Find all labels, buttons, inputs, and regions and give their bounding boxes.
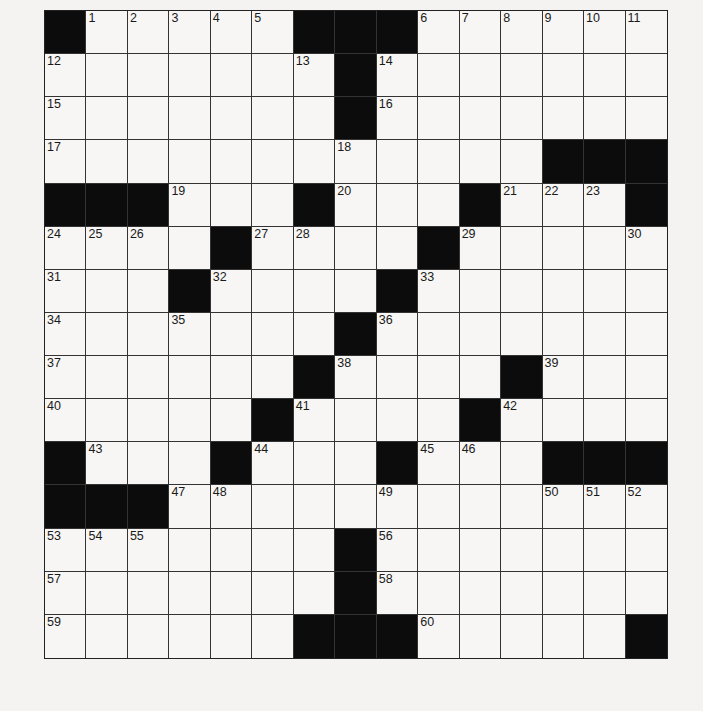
- answer-cell[interactable]: 22: [543, 184, 584, 227]
- answer-cell[interactable]: [543, 529, 584, 572]
- answer-cell[interactable]: [86, 313, 127, 356]
- answer-cell[interactable]: [128, 572, 169, 615]
- answer-cell[interactable]: [584, 529, 625, 572]
- answer-cell[interactable]: 13: [294, 54, 335, 97]
- answer-cell[interactable]: 5: [252, 11, 293, 54]
- answer-cell[interactable]: 27: [252, 227, 293, 270]
- answer-cell[interactable]: [211, 97, 252, 140]
- answer-cell[interactable]: 41: [294, 399, 335, 442]
- answer-cell[interactable]: [418, 399, 459, 442]
- answer-cell[interactable]: [584, 97, 625, 140]
- answer-cell[interactable]: [335, 270, 376, 313]
- answer-cell[interactable]: [418, 140, 459, 183]
- answer-cell[interactable]: [418, 97, 459, 140]
- answer-cell[interactable]: [377, 399, 418, 442]
- answer-cell[interactable]: [418, 529, 459, 572]
- answer-cell[interactable]: [86, 97, 127, 140]
- answer-cell[interactable]: [294, 442, 335, 485]
- answer-cell[interactable]: 48: [211, 485, 252, 528]
- answer-cell[interactable]: 6: [418, 11, 459, 54]
- answer-cell[interactable]: [169, 572, 210, 615]
- answer-cell[interactable]: 17: [45, 140, 86, 183]
- answer-cell[interactable]: [86, 270, 127, 313]
- answer-cell[interactable]: [252, 572, 293, 615]
- answer-cell[interactable]: 19: [169, 184, 210, 227]
- answer-cell[interactable]: 16: [377, 97, 418, 140]
- answer-cell[interactable]: [252, 97, 293, 140]
- answer-cell[interactable]: [169, 97, 210, 140]
- answer-cell[interactable]: 38: [335, 356, 376, 399]
- answer-cell[interactable]: [86, 356, 127, 399]
- answer-cell[interactable]: 52: [626, 485, 667, 528]
- answer-cell[interactable]: [377, 356, 418, 399]
- answer-cell[interactable]: [543, 270, 584, 313]
- answer-cell[interactable]: [626, 97, 667, 140]
- answer-cell[interactable]: [169, 140, 210, 183]
- answer-cell[interactable]: [460, 97, 501, 140]
- answer-cell[interactable]: 2: [128, 11, 169, 54]
- answer-cell[interactable]: [211, 54, 252, 97]
- answer-cell[interactable]: 36: [377, 313, 418, 356]
- answer-cell[interactable]: [501, 97, 542, 140]
- answer-cell[interactable]: [252, 270, 293, 313]
- answer-cell[interactable]: [584, 54, 625, 97]
- answer-cell[interactable]: [460, 615, 501, 658]
- answer-cell[interactable]: 49: [377, 485, 418, 528]
- answer-cell[interactable]: [626, 313, 667, 356]
- answer-cell[interactable]: [543, 615, 584, 658]
- answer-cell[interactable]: [252, 140, 293, 183]
- answer-cell[interactable]: 21: [501, 184, 542, 227]
- answer-cell[interactable]: 43: [86, 442, 127, 485]
- answer-cell[interactable]: 33: [418, 270, 459, 313]
- answer-cell[interactable]: [460, 140, 501, 183]
- answer-cell[interactable]: 10: [584, 11, 625, 54]
- answer-cell[interactable]: 46: [460, 442, 501, 485]
- answer-cell[interactable]: [294, 572, 335, 615]
- answer-cell[interactable]: [294, 529, 335, 572]
- answer-cell[interactable]: [584, 227, 625, 270]
- answer-cell[interactable]: [377, 184, 418, 227]
- answer-cell[interactable]: [418, 54, 459, 97]
- answer-cell[interactable]: 31: [45, 270, 86, 313]
- answer-cell[interactable]: [169, 529, 210, 572]
- answer-cell[interactable]: 8: [501, 11, 542, 54]
- answer-cell[interactable]: 51: [584, 485, 625, 528]
- answer-cell[interactable]: [128, 270, 169, 313]
- answer-cell[interactable]: [584, 356, 625, 399]
- answer-cell[interactable]: [211, 356, 252, 399]
- answer-cell[interactable]: [252, 313, 293, 356]
- answer-cell[interactable]: 56: [377, 529, 418, 572]
- answer-cell[interactable]: [294, 270, 335, 313]
- answer-cell[interactable]: [169, 356, 210, 399]
- answer-cell[interactable]: 30: [626, 227, 667, 270]
- answer-cell[interactable]: 23: [584, 184, 625, 227]
- answer-cell[interactable]: [584, 399, 625, 442]
- answer-cell[interactable]: [252, 615, 293, 658]
- answer-cell[interactable]: 54: [86, 529, 127, 572]
- answer-cell[interactable]: [584, 572, 625, 615]
- answer-cell[interactable]: [501, 485, 542, 528]
- answer-cell[interactable]: [211, 399, 252, 442]
- answer-cell[interactable]: 58: [377, 572, 418, 615]
- answer-cell[interactable]: [294, 140, 335, 183]
- answer-cell[interactable]: 7: [460, 11, 501, 54]
- answer-cell[interactable]: [543, 54, 584, 97]
- answer-cell[interactable]: 11: [626, 11, 667, 54]
- answer-cell[interactable]: [626, 399, 667, 442]
- answer-cell[interactable]: [252, 184, 293, 227]
- answer-cell[interactable]: 24: [45, 227, 86, 270]
- answer-cell[interactable]: 1: [86, 11, 127, 54]
- answer-cell[interactable]: [543, 572, 584, 615]
- answer-cell[interactable]: [501, 615, 542, 658]
- answer-cell[interactable]: 59: [45, 615, 86, 658]
- answer-cell[interactable]: [460, 313, 501, 356]
- answer-cell[interactable]: [501, 442, 542, 485]
- answer-cell[interactable]: [626, 270, 667, 313]
- answer-cell[interactable]: [169, 54, 210, 97]
- answer-cell[interactable]: 60: [418, 615, 459, 658]
- answer-cell[interactable]: 26: [128, 227, 169, 270]
- answer-cell[interactable]: [418, 313, 459, 356]
- answer-cell[interactable]: [128, 399, 169, 442]
- answer-cell[interactable]: [418, 356, 459, 399]
- answer-cell[interactable]: [626, 356, 667, 399]
